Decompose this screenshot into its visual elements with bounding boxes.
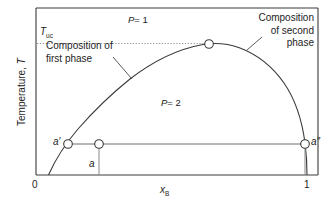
second-phase-point-marker [301,140,310,149]
x-axis-subscript: B [165,190,169,197]
phase-diagram-figure: Tuc P= 1 P= 2 Composition of first phase… [0,0,332,207]
a-double-prime-label: a″ [311,136,320,148]
x-axis-tick-one: 1 [304,179,310,191]
second-phase-callout-line3: phase [258,37,314,50]
upper-critical-temperature-label: Tuc [40,26,53,40]
tuc-subscript: uc [46,32,53,39]
overall-composition-marker [95,140,104,149]
p-two-value: = 2 [167,97,180,108]
a-prime-label: a′ [53,136,60,148]
a-label: a [89,158,95,170]
second-phase-callout-line2: of second [258,25,314,38]
x-axis-tick-zero: 0 [32,179,38,191]
x-axis-title: xB [160,184,169,198]
first-phase-callout: Composition of first phase [46,40,113,65]
y-axis-title: Temperature, T [16,32,28,152]
second-phase-callout-line1: Composition [258,12,314,25]
two-phase-region-label: P= 2 [161,97,181,109]
first-phase-point-marker [64,140,73,149]
p-one-value: = 1 [134,14,147,25]
first-phase-callout-line2: first phase [46,53,113,66]
upper-critical-point-marker [205,40,214,49]
second-phase-callout: Composition of second phase [258,12,314,50]
y-axis-title-symbol: T [16,58,27,64]
one-phase-region-label: P= 1 [128,14,148,26]
y-axis-title-prefix: Temperature, [16,64,27,126]
first-phase-callout-line1: Composition of [46,40,113,53]
first-phase-leader-line [113,57,132,79]
